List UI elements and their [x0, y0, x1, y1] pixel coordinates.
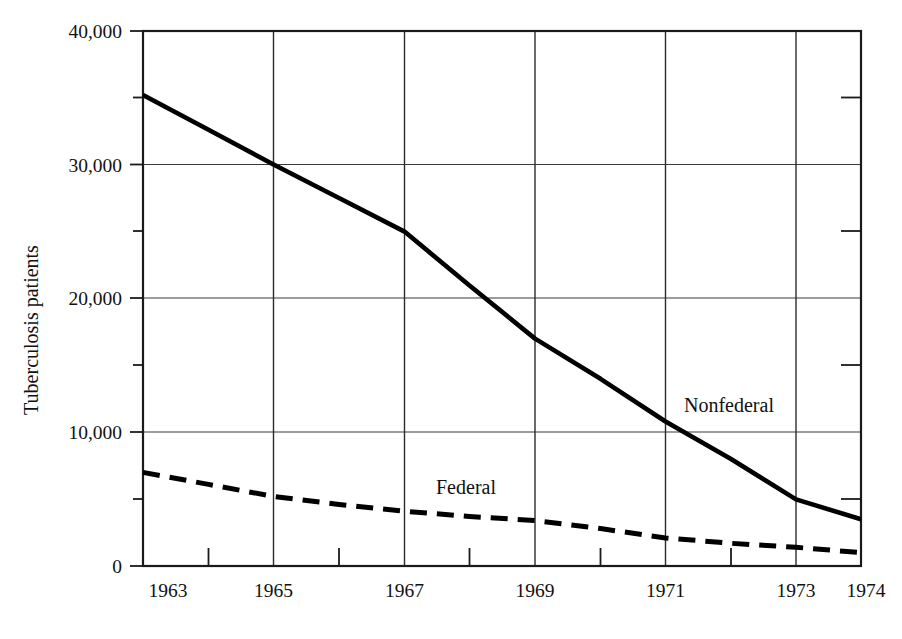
x-tick-label-1967: 1967: [385, 580, 424, 601]
x-tick-label-1971: 1971: [646, 580, 685, 601]
y-tick-label-10000: 10,000: [68, 422, 122, 443]
x-tick-label-1963: 1963: [149, 580, 188, 601]
y-tick-label-0: 0: [112, 556, 122, 577]
x-tick-label-1974: 1974: [847, 580, 886, 601]
y-major-ticks-left: [130, 31, 143, 566]
x-tick-label-1973: 1973: [777, 580, 816, 601]
y-tick-label-30000: 30,000: [68, 155, 122, 176]
x-tick-label-1969: 1969: [516, 580, 555, 601]
chart-canvas: 40,000 30,000 20,000 10,000 0 1963 1965 …: [0, 0, 902, 639]
x-tick-label-1965: 1965: [254, 580, 293, 601]
y-tick-label-20000: 20,000: [68, 288, 122, 309]
horizontal-gridlines: [143, 165, 861, 433]
x-minor-ticks: [209, 548, 732, 566]
series-line-nonfederal: [143, 95, 861, 519]
x-tick-labels: 1963 1965 1967 1969 1971 1973 1974: [149, 580, 886, 601]
y-axis-title: Tuberculosis patients: [20, 245, 43, 415]
chart-figure: 40,000 30,000 20,000 10,000 0 1963 1965 …: [0, 0, 902, 639]
series-label-federal: Federal: [436, 476, 496, 498]
series-label-nonfederal: Nonfederal: [684, 394, 774, 416]
y-tick-labels: 40,000 30,000 20,000 10,000 0: [68, 21, 122, 577]
series-line-federal: [143, 472, 861, 552]
y-tick-label-40000: 40,000: [68, 21, 122, 42]
